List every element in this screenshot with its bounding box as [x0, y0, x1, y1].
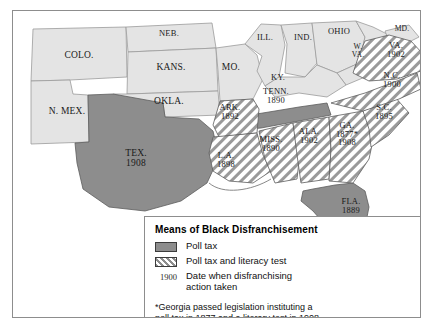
legend-sample-year: 1900	[155, 272, 177, 282]
state-shape-new-mexico	[31, 80, 89, 144]
map-figure: COLO. NEB. KANS. MO. ILL. IND. OHIO MD. …	[0, 0, 434, 332]
map-frame: COLO. NEB. KANS. MO. ILL. IND. OHIO MD. …	[12, 10, 421, 318]
legend-label-date-key: Date when disfranchising action taken	[186, 271, 292, 293]
state-shape-alabama	[293, 117, 331, 183]
legend-swatch-poll-tax-literacy	[155, 257, 177, 267]
legend-date-line2: action taken	[186, 281, 237, 292]
state-shape-kansas	[127, 48, 218, 94]
state-shape-nebraska	[126, 23, 216, 52]
state-shape-missouri	[216, 44, 263, 101]
map-legend: Means of Black Disfranchisement Poll tax…	[144, 216, 421, 318]
legend-item-poll-tax-literacy: Poll tax and literacy test	[155, 256, 413, 267]
state-shape-arkansas	[213, 99, 259, 137]
footnote-line-1: *Georgia passed legislation instituting …	[155, 302, 313, 312]
legend-item-date-key: 1900 Date when disfranchising action tak…	[155, 271, 413, 293]
legend-swatch-poll-tax	[155, 242, 177, 252]
legend-date-line1: Date when disfranchising	[186, 270, 292, 281]
legend-footnote: *Georgia passed legislation instituting …	[155, 302, 413, 318]
legend-item-poll-tax: Poll tax	[155, 241, 413, 252]
state-shape-indiana	[281, 23, 317, 77]
legend-title: Means of Black Disfranchisement	[155, 224, 413, 235]
footnote-line-2: poll tax in 1877 and a literary test in …	[155, 313, 322, 318]
legend-label-poll-tax-literacy: Poll tax and literacy test	[186, 256, 286, 267]
state-shape-colorado	[31, 27, 127, 81]
legend-label-poll-tax: Poll tax	[186, 241, 217, 252]
